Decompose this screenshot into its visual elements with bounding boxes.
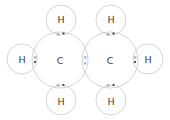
- atom-label-hydrogen-bottom-right: H: [107, 96, 114, 107]
- bond-pair-c1-h1: ×: [56, 31, 65, 37]
- atom-label-hydrogen-left: H: [18, 54, 25, 65]
- atom-label-hydrogen-bottom-left: H: [57, 96, 64, 107]
- atom-label-carbon-right: C: [107, 55, 114, 66]
- dot-electron-icon: [112, 84, 114, 86]
- cross-electron-icon: ×: [106, 31, 110, 37]
- dot-electron-icon: [62, 32, 64, 34]
- dot-electron-icon: [112, 32, 114, 34]
- dot-electron-icon: [34, 61, 36, 63]
- cross-electron-icon: ×: [56, 31, 60, 37]
- ethane-dot-cross-diagram: C C H H H H H H × × × × ×: [0, 0, 170, 120]
- cross-electron-icon: ×: [83, 60, 87, 66]
- cross-electron-icon: ×: [33, 54, 37, 60]
- atom-label-hydrogen-top-left: H: [57, 14, 64, 25]
- atom-label-hydrogen-top-right: H: [107, 14, 114, 25]
- dot-electron-icon: [134, 61, 136, 63]
- shared-electron-pairs: × × × × × × × ×: [33, 31, 137, 89]
- atom-label-hydrogen-right: H: [144, 54, 151, 65]
- cross-electron-icon: ×: [56, 82, 60, 88]
- bond-pair-c2-h2: ×: [106, 31, 115, 37]
- dot-electron-icon: [62, 84, 64, 86]
- bond-pair-c1-c2: × ×: [83, 54, 87, 66]
- atom-label-carbon-left: C: [57, 55, 64, 66]
- cross-electron-icon: ×: [133, 54, 137, 60]
- cross-electron-icon: ×: [106, 82, 110, 88]
